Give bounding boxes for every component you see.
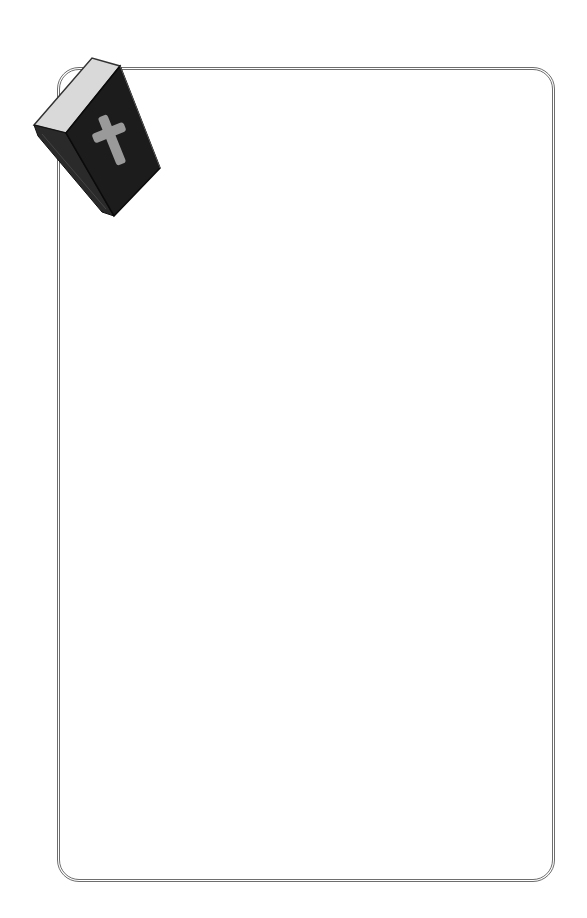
bible-book-with-cross-icon [28,44,168,224]
